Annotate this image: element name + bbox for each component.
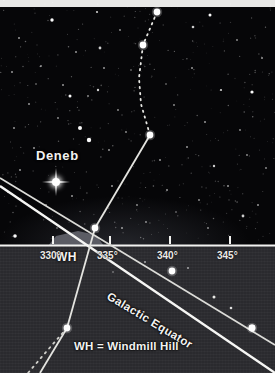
haze-star [174, 116, 175, 117]
haze-star [147, 55, 148, 56]
haze-star [154, 160, 156, 162]
field-star [87, 138, 91, 142]
haze-star [127, 6, 128, 7]
haze-star [112, 145, 113, 146]
haze-star [121, 114, 123, 116]
haze-star [214, 193, 215, 194]
haze-star [239, 155, 240, 156]
field-star [121, 227, 123, 229]
haze-star [211, 202, 212, 203]
haze-star [12, 147, 13, 148]
field-star [242, 215, 245, 218]
haze-star [272, 99, 273, 100]
haze-star [140, 134, 141, 135]
field-star [204, 121, 206, 123]
haze-star [213, 218, 215, 220]
haze-star [187, 122, 188, 123]
field-star [56, 227, 58, 229]
haze-star [183, 183, 184, 184]
haze-star [78, 109, 80, 111]
haze-star [154, 117, 155, 118]
haze-star [237, 187, 238, 188]
haze-star [206, 85, 207, 86]
haze-star [239, 220, 240, 221]
haze-star [254, 72, 255, 73]
haze-star [77, 107, 78, 108]
haze-star [77, 39, 78, 40]
haze-star [143, 96, 144, 97]
haze-star [188, 69, 189, 70]
haze-star [244, 87, 245, 88]
haze-star [35, 72, 36, 73]
haze-star [50, 222, 51, 223]
field-star [71, 195, 73, 197]
haze-star [254, 70, 256, 72]
haze-star [159, 40, 160, 41]
haze-star [67, 10, 68, 11]
haze-star [234, 78, 235, 79]
field-star [136, 204, 138, 206]
haze-star [228, 235, 229, 236]
haze-star [55, 102, 56, 103]
haze-star [79, 122, 80, 123]
haze-star [133, 66, 134, 67]
haze-star [51, 238, 52, 239]
haze-star [231, 194, 232, 195]
haze-star [140, 11, 141, 12]
haze-star [204, 44, 205, 45]
haze-star [228, 199, 229, 200]
field-star [207, 227, 209, 229]
haze-star [219, 5, 220, 6]
haze-star [217, 181, 219, 183]
field-star [103, 67, 105, 69]
haze-star [85, 50, 86, 51]
field-star [69, 95, 72, 98]
haze-star [259, 149, 260, 150]
haze-star [165, 191, 166, 192]
haze-star [140, 182, 141, 183]
haze-star [49, 15, 50, 16]
field-star [13, 127, 15, 129]
haze-star [9, 5, 10, 6]
haze-star [96, 184, 98, 186]
haze-star [223, 39, 224, 40]
node-star [169, 268, 176, 275]
haze-star [223, 41, 225, 43]
haze-star [251, 17, 252, 18]
haze-star [116, 223, 117, 224]
haze-star [149, 222, 151, 224]
haze-star [108, 103, 110, 105]
haze-star [70, 123, 71, 124]
haze-star [240, 169, 241, 170]
haze-star [145, 187, 146, 188]
field-star [62, 84, 64, 86]
haze-star [211, 89, 212, 90]
haze-star [272, 94, 273, 95]
field-star [198, 199, 200, 201]
haze-star [144, 66, 145, 67]
node-star [92, 225, 99, 232]
haze-star [186, 158, 187, 159]
haze-star [201, 166, 202, 167]
haze-star [8, 203, 9, 204]
haze-star [245, 130, 246, 131]
haze-star [76, 198, 77, 199]
haze-star [138, 224, 139, 225]
sky-chart-figure: Deneb WH Galactic Equator WH = Windmill … [0, 0, 275, 373]
haze-star [206, 53, 207, 54]
haze-star [6, 66, 7, 67]
haze-star [229, 190, 230, 191]
haze-star [128, 36, 129, 37]
haze-star [250, 38, 251, 39]
haze-star [129, 196, 130, 197]
haze-star [83, 55, 84, 56]
haze-star [226, 213, 227, 214]
haze-star [14, 94, 15, 95]
haze-star [270, 4, 271, 5]
haze-star [115, 74, 116, 75]
haze-star [199, 21, 200, 22]
haze-star [167, 228, 168, 229]
haze-star [143, 238, 144, 239]
field-star [261, 57, 263, 59]
field-star [117, 109, 119, 111]
